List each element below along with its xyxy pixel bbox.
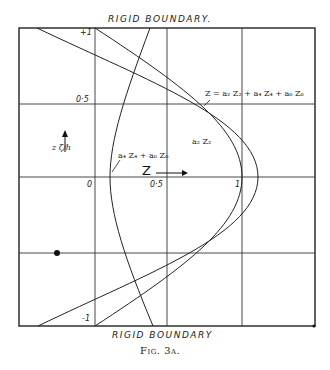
- label-higher: a₄ Z₄ + a₆ Z₆: [118, 151, 168, 160]
- y-arrow-head: [62, 130, 68, 137]
- tick-y-05: 0·5: [76, 95, 89, 104]
- chart-canvas: [0, 0, 330, 370]
- tick-x-0: 0: [87, 180, 92, 189]
- bottom-boundary-label: RIGID BOUNDARY: [112, 330, 213, 340]
- tick-y-minus1: -1: [82, 314, 90, 323]
- z-arrow-head: [182, 170, 188, 176]
- x-axis-label: Z: [142, 163, 151, 178]
- leader-total: [204, 100, 210, 106]
- corner-dot: [312, 324, 315, 327]
- leader-higher: [112, 160, 120, 172]
- tick-y-plus1: +1: [80, 28, 92, 37]
- tick-x-1: 1: [235, 180, 240, 189]
- dot-marker: [54, 250, 60, 256]
- figure-caption: Fig. 3a.: [140, 345, 180, 356]
- y-axis-label: z ζ/h: [52, 143, 71, 152]
- tick-x-05: 0·5: [150, 180, 163, 189]
- label-a2z2: a₂ Z₂: [192, 137, 211, 146]
- label-total: Z = a₂ Z₂ + a₄ Z₄ + a₆ Z₆: [205, 89, 304, 98]
- top-boundary-label: RIGID BOUNDARY.: [108, 14, 212, 24]
